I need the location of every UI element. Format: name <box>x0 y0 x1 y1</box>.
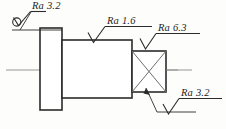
left-flange-outline <box>40 28 62 110</box>
middle-shaft-outline <box>62 40 132 98</box>
ra-label-top-left: Ra 3.2 <box>32 0 61 11</box>
ra-label-top-right: Ra 6.3 <box>158 22 187 33</box>
surface-finish-symbol-top-right <box>140 34 200 50</box>
ra-label-bottom-right: Ra 3.2 <box>181 87 210 98</box>
engineering-drawing-canvas: Ra 3.2 Ra 1.6 Ra 6.3 Ra 3.2 <box>0 0 226 129</box>
ra-label-top-middle: Ra 1.6 <box>107 15 136 26</box>
surface-finish-symbol-top-left <box>13 12 46 27</box>
